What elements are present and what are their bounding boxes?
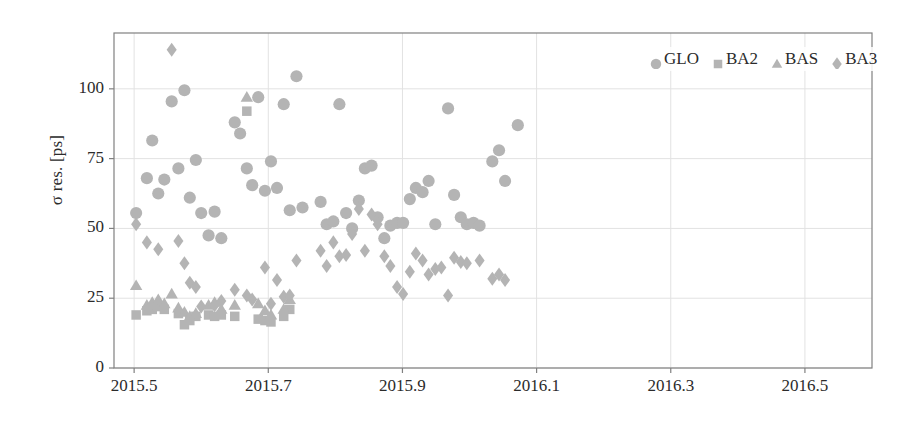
x-tick-label: 2015.9: [357, 376, 447, 396]
data-point-circle: [442, 102, 454, 114]
data-point-circle: [340, 207, 352, 219]
data-point-circle: [241, 162, 253, 174]
data-point-triangle: [165, 288, 177, 299]
data-point-circle: [429, 218, 441, 230]
legend-label-glo: GLO: [664, 49, 699, 69]
data-point-circle: [229, 116, 241, 128]
data-point-diamond: [341, 248, 351, 262]
legend-label-ba3: BA3: [845, 49, 877, 69]
legend: GLO BA2 BAS BA3: [648, 47, 879, 71]
data-point-circle: [158, 173, 170, 185]
data-point-circle: [315, 196, 327, 208]
data-point-diamond: [360, 244, 370, 258]
data-point-circle: [448, 189, 460, 201]
triangle-marker-icon-glyph: [772, 58, 783, 67]
data-point-circle: [296, 201, 308, 213]
square-marker-icon-glyph: [714, 59, 723, 68]
y-tick-label: 75: [58, 148, 104, 168]
x-tick-label: 2016.1: [492, 376, 582, 396]
data-point-circle: [271, 182, 283, 194]
data-point-circle: [473, 220, 485, 232]
circle-marker-icon-glyph: [651, 58, 661, 68]
y-tick-label: 100: [58, 78, 104, 98]
diamond-marker-icon: [831, 54, 842, 65]
data-point-circle: [278, 98, 290, 110]
data-point-square: [242, 106, 252, 116]
legend-entry-bas: BAS: [771, 49, 818, 69]
data-point-diamond: [173, 234, 183, 248]
x-tick-label: 2015.5: [89, 376, 179, 396]
data-point-circle: [499, 175, 511, 187]
data-point-triangle: [229, 299, 241, 310]
series-glo: [130, 70, 524, 244]
data-point-circle: [184, 192, 196, 204]
y-tick-label: 25: [58, 287, 104, 307]
data-point-circle: [259, 185, 271, 197]
data-point-diamond: [443, 288, 453, 302]
y-tick-label: 0: [58, 357, 104, 377]
data-point-diamond: [385, 259, 395, 273]
data-point-circle: [246, 179, 258, 191]
data-point-circle: [423, 175, 435, 187]
legend-label-ba2: BA2: [726, 49, 758, 69]
legend-entry-glo: GLO: [650, 49, 699, 69]
data-point-circle: [416, 186, 428, 198]
data-point-circle: [486, 155, 498, 167]
data-point-circle: [215, 232, 227, 244]
data-point-circle: [397, 217, 409, 229]
data-point-square: [131, 310, 141, 320]
data-point-circle: [327, 215, 339, 227]
data-point-diamond: [131, 217, 141, 231]
data-point-diamond: [405, 265, 415, 279]
legend-entry-ba3: BA3: [831, 49, 877, 69]
data-point-triangle: [241, 91, 253, 102]
data-point-diamond: [272, 273, 282, 287]
data-point-diamond: [379, 249, 389, 263]
data-point-circle: [265, 155, 277, 167]
data-point-circle: [152, 187, 164, 199]
series-ba3: [131, 43, 510, 314]
legend-label-bas: BAS: [785, 49, 818, 69]
data-point-circle: [172, 162, 184, 174]
plot-frame: [114, 33, 872, 368]
data-point-square: [230, 312, 240, 322]
data-point-circle: [333, 98, 345, 110]
data-point-diamond: [179, 256, 189, 270]
data-point-circle: [290, 70, 302, 82]
data-point-diamond: [322, 259, 332, 273]
x-tick-label: 2015.7: [223, 376, 313, 396]
data-point-circle: [146, 134, 158, 146]
data-point-diamond: [142, 235, 152, 249]
data-point-circle: [166, 95, 178, 107]
data-point-circle: [234, 127, 246, 139]
data-point-diamond: [291, 254, 301, 268]
data-point-triangle: [130, 279, 142, 290]
data-point-circle: [141, 172, 153, 184]
data-point-diamond: [230, 283, 240, 297]
data-point-diamond: [153, 242, 163, 256]
data-point-circle: [178, 84, 190, 96]
x-tick-label: 2016.3: [626, 376, 716, 396]
x-tick-label: 2016.5: [760, 376, 850, 396]
data-point-diamond: [316, 244, 326, 258]
data-point-circle: [252, 91, 264, 103]
data-point-diamond: [475, 254, 485, 268]
square-marker-icon: [712, 54, 723, 65]
data-point-circle: [190, 154, 202, 166]
data-point-circle: [202, 229, 214, 241]
data-point-circle: [493, 144, 505, 156]
data-point-diamond: [266, 297, 276, 311]
data-point-circle: [195, 207, 207, 219]
scatter-plot-figure: σ res. [ps] 0255075100 2015.52015.72015.…: [0, 0, 912, 421]
legend-entry-ba2: BA2: [712, 49, 758, 69]
data-point-circle: [378, 232, 390, 244]
data-point-diamond: [167, 43, 177, 57]
data-point-circle: [209, 206, 221, 218]
y-axis-label: σ res. [ps]: [47, 135, 67, 205]
data-point-circle: [404, 193, 416, 205]
triangle-marker-icon: [771, 54, 782, 65]
data-point-diamond: [328, 235, 338, 249]
data-point-circle: [512, 119, 524, 131]
circle-marker-icon: [650, 54, 661, 65]
diamond-marker-icon-glyph: [832, 57, 842, 69]
